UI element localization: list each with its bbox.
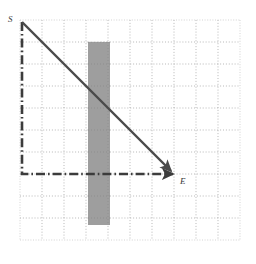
shaded-obstacle-column [88, 42, 110, 225]
start-point-label: S [8, 15, 13, 24]
end-point-label: E [180, 177, 186, 186]
grid-path-diagram: S E [0, 0, 256, 264]
diagram-canvas [0, 0, 256, 264]
